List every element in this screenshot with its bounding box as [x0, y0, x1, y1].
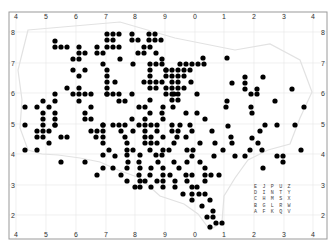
map-dot: [154, 128, 159, 133]
map-dot: [110, 37, 115, 42]
map-dot: [142, 178, 147, 183]
legend-row: C H M S X: [254, 196, 292, 202]
map-dot: [100, 134, 105, 139]
map-dot: [58, 159, 63, 164]
right-tick-label: 2: [321, 212, 325, 219]
map-dot: [160, 104, 165, 109]
map-dot: [52, 91, 57, 96]
map-dot: [46, 104, 51, 109]
map-dot: [280, 153, 285, 158]
map-dot: [129, 91, 134, 96]
map-dot: [94, 128, 99, 133]
map-dot: [175, 73, 180, 78]
map-dot: [112, 79, 117, 84]
map-dot: [70, 67, 75, 72]
legend-row: E J P U Z: [254, 184, 292, 190]
map-dot: [219, 220, 224, 225]
map-dot: [194, 184, 199, 189]
map-dot: [122, 122, 127, 127]
left-tick-label: 3: [11, 182, 15, 189]
map-dot: [169, 97, 174, 102]
map-dot: [249, 135, 254, 140]
map-dot: [110, 44, 115, 49]
map-dot: [153, 50, 158, 55]
map-dot: [177, 61, 182, 66]
map-dot: [158, 37, 163, 42]
map-dot: [88, 128, 93, 133]
map-dot: [152, 31, 157, 36]
map-dot: [129, 31, 134, 36]
top-tick-label: 3: [282, 13, 286, 20]
map-dot: [110, 122, 115, 127]
map-dot: [184, 178, 189, 183]
map-dot: [154, 122, 159, 127]
map-dot: [147, 61, 152, 66]
map-dot: [124, 152, 129, 157]
map-dot: [147, 79, 152, 84]
map-dot: [148, 140, 153, 145]
map-dot: [262, 122, 267, 127]
map-dot: [207, 197, 212, 202]
top-tick-label: 9: [163, 13, 167, 20]
map-dot: [142, 128, 147, 133]
map-dot: [171, 140, 176, 145]
bottom-tick-label: 6: [74, 231, 78, 238]
map-dot: [160, 134, 165, 139]
map-dot: [135, 50, 140, 55]
map-dot: [82, 91, 87, 96]
map-dot: [122, 134, 127, 139]
map-dot: [171, 159, 176, 164]
map-dot: [242, 80, 247, 85]
map-dot: [100, 61, 105, 66]
map-dot: [229, 140, 234, 145]
map-dot: [124, 178, 129, 183]
map-dot: [58, 134, 63, 139]
map-dot: [116, 98, 121, 103]
map-dot: [249, 110, 254, 115]
map-dot: [40, 128, 45, 133]
right-tick-label: 7: [321, 60, 325, 67]
map-dot: [94, 50, 99, 55]
map-dot: [22, 104, 27, 109]
map-dot: [110, 165, 115, 170]
map-dot: [183, 61, 188, 66]
map-dot: [100, 128, 105, 133]
map-dot: [118, 128, 123, 133]
legend-row: A F K Q V: [254, 209, 292, 215]
map-dot: [196, 191, 201, 196]
map-dot: [82, 50, 87, 55]
map-dot: [147, 44, 152, 49]
right-tick-label: 8: [321, 29, 325, 36]
bottom-tick-label: 2: [252, 231, 256, 238]
map-dot: [141, 50, 146, 55]
map-dot: [181, 67, 186, 72]
map-dot: [116, 44, 121, 49]
map-dot: [130, 147, 135, 152]
map-dot: [210, 214, 215, 219]
map-dot: [116, 31, 121, 36]
top-tick-label: 7: [104, 13, 108, 20]
map-dot: [274, 153, 279, 158]
map-dot: [148, 184, 153, 189]
map-dot: [147, 97, 152, 102]
map-dot: [175, 128, 180, 133]
map-dot: [189, 184, 194, 189]
map-dot: [228, 134, 233, 139]
map-dot: [52, 110, 57, 115]
map-dot: [116, 91, 121, 96]
map-dot: [172, 184, 177, 189]
map-dot: [130, 61, 135, 66]
top-tick-label: 0: [193, 13, 197, 20]
top-tick-label: 4: [14, 13, 18, 20]
map-dot: [137, 152, 142, 157]
map-dot: [100, 152, 105, 157]
map-dot: [100, 122, 105, 127]
map-dot: [225, 123, 230, 128]
map-dot: [254, 91, 259, 96]
map-dot: [216, 172, 221, 177]
map-dot: [163, 85, 168, 90]
map-dot: [210, 208, 215, 213]
map-dot: [110, 31, 115, 36]
map-dot: [136, 159, 141, 164]
map-dot: [137, 184, 142, 189]
